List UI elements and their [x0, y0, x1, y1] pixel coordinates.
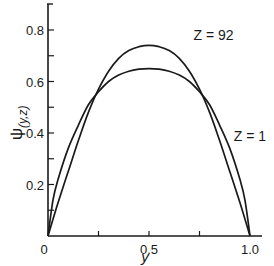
curve-z1	[48, 69, 250, 236]
y-axis-label-sub: (y,z)	[16, 106, 30, 128]
y-axis-label-main: ψ	[7, 128, 26, 140]
y-tick-label: 0.6	[26, 75, 44, 90]
chart: 0.20.40.60.800.51.0 Z = 92Z = 1 y ψ (y,z…	[0, 0, 274, 266]
series-label: Z = 1	[234, 128, 267, 144]
series-label: Z = 92	[193, 27, 233, 43]
y-tick-label: 0.8	[26, 23, 44, 38]
y-tick-label: 0.2	[26, 178, 44, 193]
x-tick-label: 0	[40, 242, 47, 257]
curve-z92	[48, 45, 250, 236]
x-tick-label: 1.0	[241, 242, 259, 257]
labels: Z = 92Z = 1	[193, 27, 266, 143]
curves	[48, 45, 250, 236]
ticks: 0.20.40.60.800.51.0	[26, 23, 259, 257]
